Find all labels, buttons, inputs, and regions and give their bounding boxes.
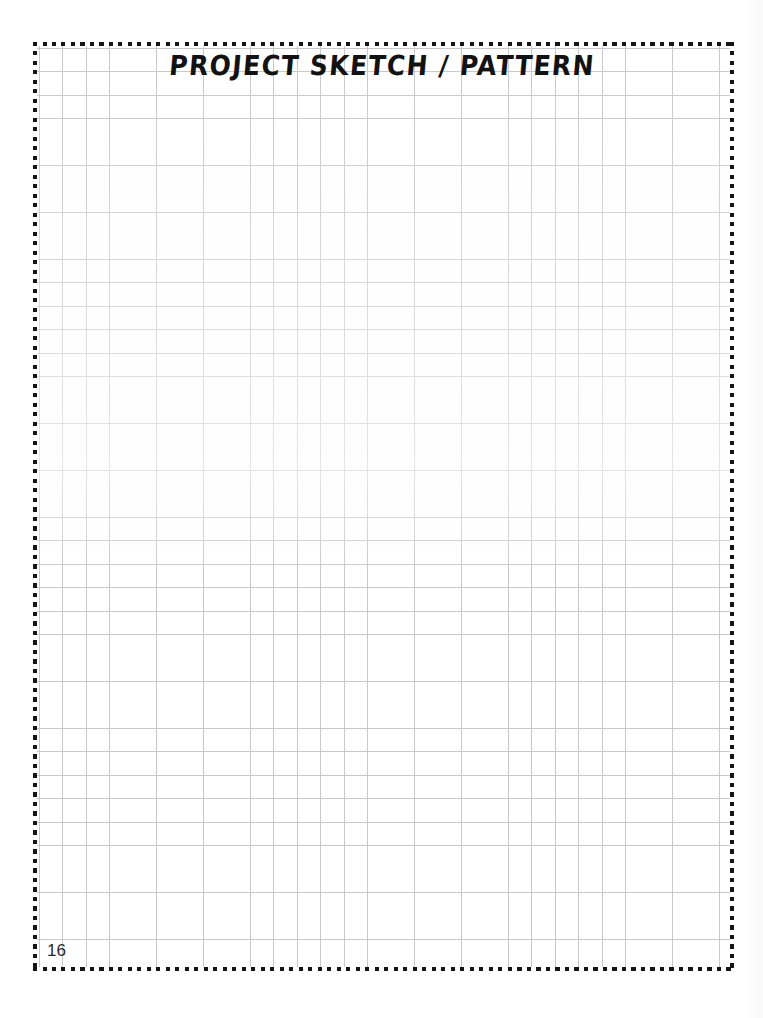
page-edge-shading [744,0,763,1018]
dotted-border-top [33,42,734,46]
page-number: 16 [47,942,66,959]
page-title: PROJECT SKETCH / PATTERN [30,50,734,82]
notebook-page: PROJECT SKETCH / PATTERN 16 [0,0,763,1018]
worksheet-frame: PROJECT SKETCH / PATTERN 16 [33,42,734,971]
graph-grid-area[interactable] [37,46,730,967]
dotted-border-left [33,42,37,971]
grid-paper-wash [37,46,730,967]
dotted-border-right [730,42,734,971]
dotted-border-bottom [33,967,734,971]
